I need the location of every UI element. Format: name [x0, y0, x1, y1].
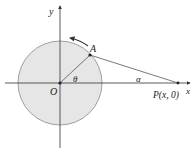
segment-ap — [90, 55, 178, 83]
origin-point — [58, 81, 61, 84]
theta-label: θ — [73, 74, 78, 84]
x-axis-label: x — [185, 86, 190, 96]
y-axis-label: y — [48, 6, 54, 17]
point-a-label: A — [89, 43, 97, 54]
point-p-label: P(x, 0) — [152, 90, 179, 101]
point-p — [177, 82, 180, 85]
diagram-canvas: y x O A P(x, 0) θ α — [0, 0, 192, 154]
alpha-label: α — [136, 74, 141, 84]
origin-label: O — [50, 86, 57, 97]
